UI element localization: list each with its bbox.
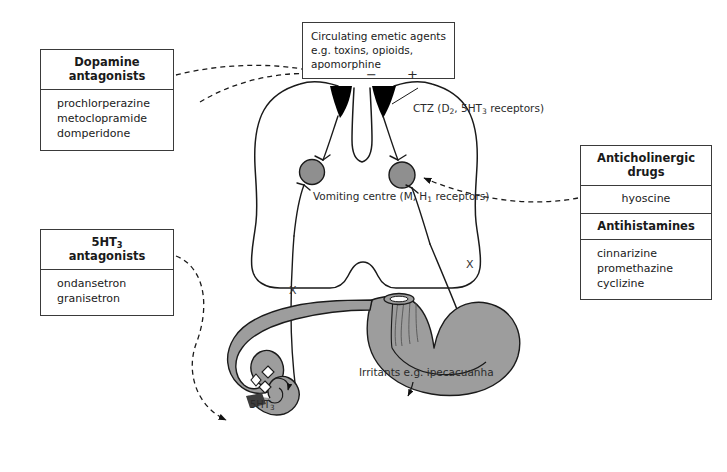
emetic-agents-line1: Circulating emetic agents — [311, 29, 446, 43]
5ht3-header-line2: antagonists — [45, 249, 169, 263]
anticholinergic-antihistamine-box: Anticholinergic drugs hyoscine Antihista… — [580, 145, 712, 300]
ctz-5ht-mid: , 5HT — [454, 102, 482, 114]
irritants-label: Irritants — [359, 366, 400, 378]
5ht3-antagonists-box: 5HT3 antagonists ondansetron granisetron — [40, 229, 174, 316]
vc-receptor-post: receptors) — [432, 190, 489, 202]
ctz-5ht-sub: 3 — [482, 107, 487, 116]
vomiting-centre-receptors: (M, H1 receptors) — [400, 190, 490, 202]
drug-item: ondansetron — [57, 277, 173, 292]
ctz-label-group: CTZ (D2, 5HT3 receptors) — [413, 102, 544, 116]
circulating-emetic-agents-box: Circulating emetic agents e.g. toxins, o… — [302, 22, 455, 79]
5ht3-antagonists-header: 5HT3 antagonists — [41, 230, 173, 270]
dopamine-header-line1: Dopamine — [45, 55, 169, 69]
minus-sign-label: − — [366, 66, 377, 83]
5ht3-header-line1: 5HT3 — [45, 235, 169, 249]
5ht3-header-text: 5HT — [91, 235, 116, 249]
gut-5ht3-label: 5HT3 — [250, 398, 275, 411]
ctz-label: CTZ — [413, 102, 434, 114]
vc-receptor-pre: (M, H — [400, 190, 428, 202]
5ht3-drug-list: ondansetron granisetron — [41, 270, 173, 315]
antihistamines-drug-list: cinnarizine promethazine cyclizine — [581, 240, 711, 300]
irritants-example-label: e.g. ipecacuanha — [404, 366, 494, 378]
anticholinergic-header-line1: Anticholinergic — [585, 151, 707, 165]
irritants-label-group: Irritants e.g. ipecacuanha — [359, 366, 494, 380]
drug-item: hyoscine — [581, 192, 711, 207]
vomiting-centre-label: Vomiting centre — [313, 190, 396, 202]
anticholinergic-drug-list: hyoscine — [581, 186, 711, 214]
drug-item: domperidone — [57, 127, 173, 142]
drug-item: metoclopramide — [57, 112, 173, 127]
drug-item: granisetron — [57, 292, 173, 307]
dopamine-header-line2: antagonists — [45, 69, 169, 83]
antihistamines-header: Antihistamines — [581, 214, 711, 240]
anticholinergic-header-line2: drugs — [585, 165, 707, 179]
ht3-to-gut-arrow — [176, 256, 226, 420]
drug-item: prochlorperazine — [57, 97, 173, 112]
dopamine-drug-list: prochlorperazine metoclopramide domperid… — [41, 90, 173, 150]
drug-item: cinnarizine — [597, 247, 711, 262]
diagram-canvas: Circulating emetic agents e.g. toxins, o… — [0, 0, 727, 472]
stomach — [367, 294, 520, 396]
ctz-receptors-line1: (D2, 5HT3 — [437, 102, 486, 114]
drug-item: cyclizine — [597, 277, 711, 292]
plus-sign-label: + — [407, 66, 418, 83]
anticholinergic-header: Anticholinergic drugs — [581, 146, 711, 186]
emetic-agents-line2: e.g. toxins, opioids, apomorphine — [311, 43, 446, 71]
vagus-marker-left: X — [289, 284, 297, 297]
gut-5ht-subscript: 3 — [270, 403, 275, 412]
vagus-marker-right: X — [466, 258, 474, 271]
drug-item: promethazine — [597, 262, 711, 277]
dopamine-antagonists-header: Dopamine antagonists — [41, 50, 173, 90]
ctz-receptors-line2: receptors) — [490, 102, 544, 114]
vomiting-centre-label-group: Vomiting centre (M, H1 receptors) — [313, 190, 489, 204]
ctz-d2-pre: (D — [437, 102, 449, 114]
dopamine-antagonists-box: Dopamine antagonists prochlorperazine me… — [40, 49, 174, 151]
gut-5ht-text: 5HT — [250, 399, 270, 410]
